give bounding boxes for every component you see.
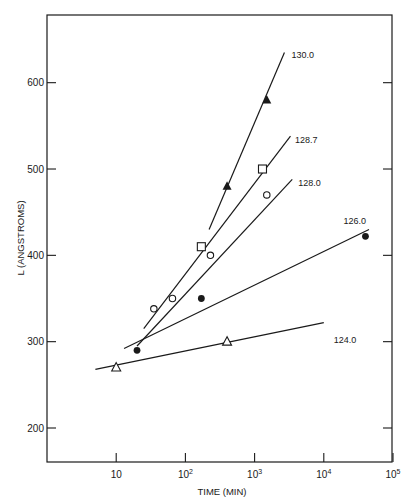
x-tick-label: 102 bbox=[178, 468, 193, 480]
fit-line bbox=[144, 136, 291, 329]
y-tick-label: 400 bbox=[27, 250, 44, 261]
square-marker bbox=[197, 243, 205, 251]
x-tick-label: 10 bbox=[111, 469, 123, 480]
fit-line bbox=[124, 229, 369, 348]
y-tick-label: 300 bbox=[27, 336, 44, 347]
filled-circle-marker bbox=[198, 295, 205, 302]
x-axis: 10102103104105 bbox=[111, 453, 401, 480]
x-tick-label: 104 bbox=[316, 468, 331, 480]
x-axis-label: TIME (MIN) bbox=[197, 486, 246, 497]
fit-line bbox=[209, 52, 284, 229]
series-label: 128.0 bbox=[298, 178, 321, 188]
filled-circle-marker bbox=[134, 347, 141, 354]
fit-line bbox=[137, 179, 292, 346]
circle-marker bbox=[151, 306, 157, 312]
plot-series: 130.0128.7128.0126.0124.0 bbox=[95, 50, 369, 371]
x-tick-label: 103 bbox=[247, 468, 262, 480]
series-label: 128.7 bbox=[295, 135, 318, 145]
square-marker bbox=[258, 165, 266, 173]
chart: 200300400500600 10102103104105 L (ANGSTR… bbox=[0, 0, 408, 503]
circle-marker bbox=[169, 295, 175, 301]
series-128-0: 128.0 bbox=[137, 178, 321, 346]
circle-marker bbox=[207, 252, 213, 258]
series-label: 126.0 bbox=[343, 216, 366, 226]
filled-circle-marker bbox=[362, 233, 369, 240]
series-label: 124.0 bbox=[334, 335, 357, 345]
plot-frame bbox=[47, 15, 392, 462]
series-126-0: 126.0 bbox=[124, 216, 369, 354]
series-label: 130.0 bbox=[292, 50, 315, 60]
y-tick-label: 600 bbox=[27, 77, 44, 88]
filled-triangle-marker bbox=[262, 95, 271, 104]
y-axis-label: L (ANGSTROMS) bbox=[15, 200, 26, 275]
y-tick-label: 200 bbox=[27, 423, 44, 434]
x-tick-label: 105 bbox=[385, 468, 400, 480]
series-124-0: 124.0 bbox=[95, 323, 356, 371]
triangle-marker bbox=[223, 337, 232, 346]
filled-triangle-marker bbox=[223, 181, 232, 190]
circle-marker bbox=[264, 192, 270, 198]
y-tick-label: 500 bbox=[27, 164, 44, 175]
